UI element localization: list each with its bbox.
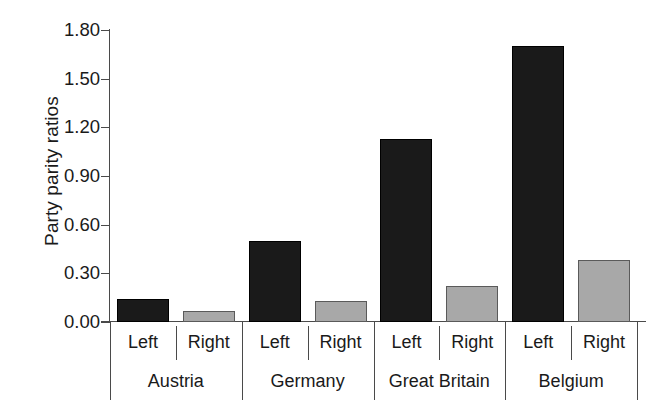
bar-belgium-right (578, 260, 630, 322)
plot-area (110, 30, 637, 322)
y-axis-tick-label: 0.90 (44, 167, 100, 186)
x-axis-group-label: Great Britain (374, 362, 506, 400)
x-axis-group-separator (374, 322, 375, 400)
x-axis-sublabel: Left (110, 322, 176, 362)
y-axis-tick-labels: 0.000.300.600.901.201.501.80 (44, 0, 100, 406)
bar-belgium-left (512, 46, 564, 322)
x-axis-group-label: Austria (110, 362, 242, 400)
bar-germany-right (315, 301, 367, 322)
x-axis-sublabel: Right (571, 322, 637, 362)
x-axis-group-label: Germany (242, 362, 374, 400)
x-axis-sublabel: Left (374, 322, 440, 362)
y-axis-tick-label: 0.60 (44, 216, 100, 235)
bar-austria-right (183, 311, 235, 322)
bar-germany-left (249, 241, 301, 322)
x-axis-sublabel: Right (176, 322, 242, 362)
y-axis-tick-label: 1.80 (44, 21, 100, 40)
x-axis-sub-separator (439, 326, 440, 360)
x-axis-group-separator (505, 322, 506, 400)
bar-austria-left (117, 299, 169, 322)
x-axis-group-separator (110, 322, 111, 400)
x-axis-group-separator (242, 322, 243, 400)
x-axis-group-label: Belgium (505, 362, 637, 400)
y-axis-tick-label: 1.50 (44, 70, 100, 89)
bar-great-britain-left (380, 139, 432, 322)
bar-great-britain-right (446, 286, 498, 322)
bar-chart: Party parity ratios 0.000.300.600.901.20… (0, 0, 651, 406)
x-axis-sublabel: Right (439, 322, 505, 362)
x-axis-sublabel: Left (242, 322, 308, 362)
x-axis-label-table: LeftRightLeftRightLeftRightLeftRight Aus… (110, 322, 637, 400)
x-axis-group-separator (637, 322, 638, 400)
y-axis-tick-label: 0.00 (44, 313, 100, 332)
x-axis-sub-separator (176, 326, 177, 360)
x-axis-sublabel: Left (505, 322, 571, 362)
x-axis-sublabel: Right (308, 322, 374, 362)
y-axis-tick-label: 0.30 (44, 264, 100, 283)
x-axis-sub-separator (308, 326, 309, 360)
y-axis-tick-label: 1.20 (44, 118, 100, 137)
x-axis-sub-separator (571, 326, 572, 360)
